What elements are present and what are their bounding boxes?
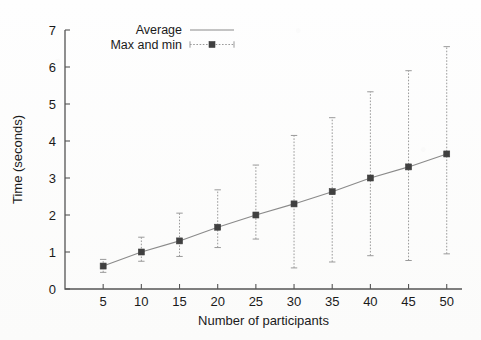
x-axis-tick-label: 30 bbox=[287, 294, 301, 309]
legend-swatch-marker bbox=[209, 42, 215, 48]
data-point-marker bbox=[444, 151, 450, 157]
x-axis-tick-label: 20 bbox=[210, 294, 224, 309]
y-axis-tick-label: 2 bbox=[49, 208, 56, 223]
data-point-marker bbox=[406, 164, 412, 170]
y-axis-tick-label: 0 bbox=[49, 282, 56, 297]
errorbar-series bbox=[100, 47, 450, 273]
y-axis-tick-label: 3 bbox=[49, 171, 56, 186]
chart-figure: 012345675101520253035404550Number of par… bbox=[0, 0, 481, 340]
x-axis-tick-label: 15 bbox=[172, 294, 186, 309]
y-axis-title: Time (seconds) bbox=[10, 115, 25, 204]
chart-plot-area: 012345675101520253035404550Number of par… bbox=[0, 0, 481, 340]
y-axis-tick-label: 6 bbox=[49, 60, 56, 75]
legend-label-average: Average bbox=[136, 23, 182, 37]
x-axis-tick-label: 45 bbox=[401, 294, 415, 309]
x-axis-tick-label: 50 bbox=[439, 294, 453, 309]
x-axis-tick-label: 25 bbox=[249, 294, 263, 309]
x-axis-tick-label: 40 bbox=[363, 294, 377, 309]
data-point-marker bbox=[177, 238, 183, 244]
x-axis-tick-label: 5 bbox=[100, 294, 107, 309]
x-axis-tick-label: 35 bbox=[325, 294, 339, 309]
data-point-marker bbox=[138, 249, 144, 255]
average-line bbox=[103, 154, 447, 266]
y-axis-tick-label: 7 bbox=[49, 23, 56, 38]
data-point-marker bbox=[253, 212, 259, 218]
data-point-marker bbox=[100, 263, 106, 269]
data-point-marker bbox=[329, 189, 335, 195]
y-axis-tick-label: 5 bbox=[49, 97, 56, 112]
y-axis-tick-label: 4 bbox=[49, 134, 56, 149]
legend-label-max-and-min: Max and min bbox=[110, 38, 182, 52]
data-point-marker bbox=[367, 175, 373, 181]
data-point-marker bbox=[215, 224, 221, 230]
y-axis-tick-label: 1 bbox=[49, 245, 56, 260]
x-axis-title: Number of participants bbox=[198, 313, 329, 328]
data-point-marker bbox=[291, 201, 297, 207]
axis-spines bbox=[65, 30, 462, 289]
x-axis-tick-label: 10 bbox=[134, 294, 148, 309]
